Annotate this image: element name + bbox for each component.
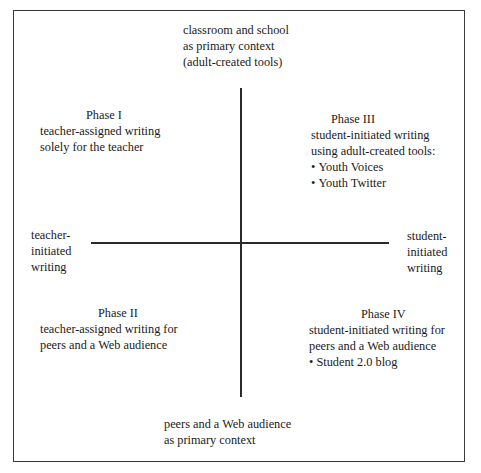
right-axis-line-1: student- bbox=[407, 228, 447, 244]
phase-2-block: Phase II teacher-assigned writing for pe… bbox=[40, 305, 178, 353]
phase-1-title: Phase I bbox=[40, 107, 160, 123]
phase-2-line-2: peers and a Web audience bbox=[40, 337, 178, 353]
phase-2-line-1: teacher-assigned writing for bbox=[40, 321, 178, 337]
phase-3-bullet-youth-twitter: Youth Twitter bbox=[311, 175, 435, 191]
phase-4-line-2: peers and a Web audience bbox=[309, 338, 445, 354]
top-axis-line-1: classroom and school bbox=[183, 22, 289, 38]
right-axis-label: student- initiated writing bbox=[407, 228, 447, 276]
phase-4-line-1: student-initiated writing for bbox=[309, 322, 445, 338]
top-axis-label: classroom and school as primary context … bbox=[183, 22, 289, 70]
horizontal-axis-line bbox=[91, 242, 389, 244]
phase-3-bullet-youth-voices: Youth Voices bbox=[311, 159, 435, 175]
phase-4-block: Phase IV student-initiated writing for p… bbox=[309, 306, 445, 370]
left-axis-line-1: teacher- bbox=[31, 227, 71, 243]
phase-4-title: Phase IV bbox=[309, 306, 445, 322]
phase-1-block: Phase I teacher-assigned writing solely … bbox=[40, 107, 160, 155]
bottom-axis-line-1: peers and a Web audience bbox=[164, 416, 291, 432]
diagram-frame bbox=[13, 10, 465, 462]
right-axis-line-2: initiated bbox=[407, 244, 447, 260]
left-axis-line-2: initiated bbox=[31, 243, 71, 259]
phase-3-line-2: using adult-created tools: bbox=[311, 143, 435, 159]
bottom-axis-label: peers and a Web audience as primary cont… bbox=[164, 416, 291, 448]
phase-3-block: Phase III student-initiated writing usin… bbox=[311, 111, 435, 191]
phase-1-line-2: solely for the teacher bbox=[40, 139, 160, 155]
left-axis-label: teacher- initiated writing bbox=[31, 227, 71, 275]
phase-3-line-1: student-initiated writing bbox=[311, 127, 435, 143]
phase-2-title: Phase II bbox=[40, 305, 178, 321]
top-axis-line-3: (adult-created tools) bbox=[183, 54, 289, 70]
top-axis-line-2: as primary context bbox=[183, 38, 289, 54]
right-axis-line-3: writing bbox=[407, 260, 447, 276]
phase-1-line-1: teacher-assigned writing bbox=[40, 123, 160, 139]
phase-4-bullet-student-blog: Student 2.0 blog bbox=[309, 354, 445, 370]
phase-3-title: Phase III bbox=[311, 111, 435, 127]
left-axis-line-3: writing bbox=[31, 259, 71, 275]
bottom-axis-line-2: as primary context bbox=[164, 432, 291, 448]
